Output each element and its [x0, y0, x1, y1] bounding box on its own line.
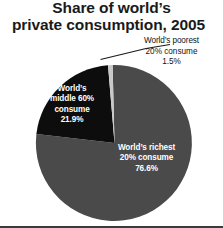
bottom-border-rule: [0, 226, 223, 228]
pie-chart: World’s middle 60% consume 21.9% World’s…: [0, 0, 223, 228]
slice-callout-poorest: World’s poorest 20% consume 1.5%: [120, 36, 223, 68]
pie-slice-middle[interactable]: [36, 65, 114, 143]
chart-screenshot: Share of world’s private consumption, 20…: [0, 0, 223, 228]
slice-callout-poorest-line-2: 20% consume: [120, 47, 223, 58]
pie-chart-svg: [0, 0, 223, 228]
slice-callout-poorest-line-1: World’s poorest: [120, 36, 223, 47]
slice-callout-poorest-value: 1.5%: [120, 57, 223, 68]
